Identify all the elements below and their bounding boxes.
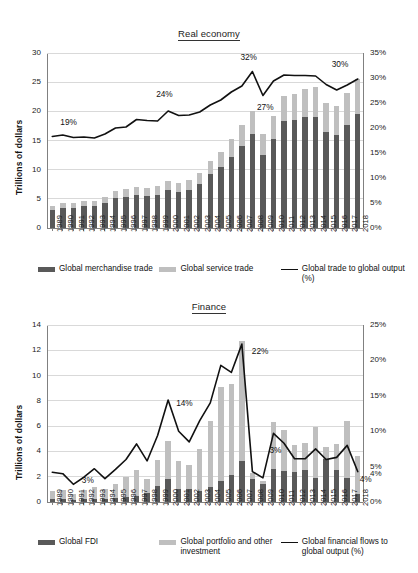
y-axis-tick-real: 25 [11,77,41,86]
y-axis-tick-real: 10 [11,165,41,174]
x-axis-tick-real: 1999 [161,215,170,232]
x-axis-tick-real: 1991 [77,215,86,232]
legend-item-label: Global financial flows to global output … [302,537,408,557]
x-axis-tick-fin: 2018 [361,489,370,506]
y2-axis-tick-real: 0% [370,223,382,232]
x-axis-tick-real: 2004 [213,215,222,232]
x-axis-tick-real: 2008 [256,215,265,232]
x-axis-tick-real: 1989 [55,215,64,232]
legend-item-label: Global trade to global output (%) [302,264,408,284]
y-axis-tick-fin: 2 [11,472,41,481]
x-axis-tick-real: 2000 [171,215,180,232]
x-axis-tick-fin: 1991 [77,489,86,506]
x-axis-tick-real: 2003 [203,215,212,232]
y-axis-tick-fin: 12 [11,345,41,354]
x-axis-tick-fin: 2007 [245,489,254,506]
legend-light-swatch-icon [159,540,176,545]
legend-item: Global portfolio and other investment [159,537,274,557]
legend-item: Global service trade [159,264,274,274]
x-axis-tick-real: 2005 [224,215,233,232]
x-axis-tick-fin: 1997 [140,489,149,506]
x-axis-tick-real: 2018 [361,215,370,232]
y-axis-tick-fin: 10 [11,371,41,380]
data-annotation-real: 32% [240,52,257,62]
y2-axis-tick-real: 20% [370,123,386,132]
figure-root: Real economy Trillions of dollars Global… [0,0,418,573]
legend-item-label: Global service trade [180,264,253,274]
plot-area-real-economy [0,0,418,290]
x-axis-tick-fin: 2016 [340,489,349,506]
x-axis-tick-fin: 2009 [266,489,275,506]
y2-axis-tick-real: 35% [370,48,386,57]
data-annotation-real: 19% [60,117,77,127]
y2-axis-tick-fin: 20% [370,355,386,364]
x-axis-tick-real: 1994 [108,215,117,232]
legend-light-swatch-icon [159,267,176,272]
x-axis-tick-real: 1995 [119,215,128,232]
x-axis-tick-real: 1992 [87,215,96,232]
x-axis-tick-real: 2009 [266,215,275,232]
plot-area-finance [0,290,418,573]
y-axis-tick-fin: 8 [11,396,41,405]
data-annotation-fin: 4% [360,474,372,484]
legend-item-label: Global portfolio and other investment [180,537,274,557]
y2-axis-tick-fin: 10% [370,426,386,435]
data-annotation-fin: 3% [82,475,94,485]
x-axis-tick-real: 2012 [298,215,307,232]
data-annotation-real: 24% [156,89,173,99]
x-axis-tick-fin: 2003 [203,489,212,506]
legend-item: Global financial flows to global output … [281,537,408,557]
y2-axis-tick-real: 5% [370,198,382,207]
y-axis-tick-fin: 6 [11,421,41,430]
data-annotation-fin: 3% [269,445,281,455]
x-axis-tick-real: 2001 [182,215,191,232]
x-axis-tick-real: 2010 [277,215,286,232]
chart-panel-finance: Finance Trillions of dollars Global FDIG… [0,290,418,573]
x-axis-tick-fin: 1994 [108,489,117,506]
x-axis-tick-fin: 2017 [350,489,359,506]
legend-real-economy: Global merchandise tradeGlobal service t… [38,264,414,284]
legend-item-label: Global merchandise trade [59,264,153,274]
x-axis-tick-real: 2016 [340,215,349,232]
x-axis-tick-real: 2007 [245,215,254,232]
x-axis-tick-real: 2013 [308,215,317,232]
legend-item: Global trade to global output (%) [281,264,408,284]
x-axis-tick-fin: 1992 [87,489,96,506]
x-axis-tick-fin: 1999 [161,489,170,506]
x-axis-tick-fin: 2013 [308,489,317,506]
legend-line-swatch-icon [281,269,298,270]
x-axis-tick-fin: 2008 [256,489,265,506]
data-annotation-real: 27% [257,102,274,112]
x-axis-tick-real: 2015 [329,215,338,232]
x-axis-tick-fin: 2010 [277,489,286,506]
y2-axis-tick-real: 25% [370,98,386,107]
y2-axis-tick-fin: 0% [370,497,382,506]
x-axis-tick-fin: 2002 [192,489,201,506]
y2-axis-tick-real: 15% [370,148,386,157]
x-axis-tick-fin: 2012 [298,489,307,506]
legend-item: Global merchandise trade [38,264,153,274]
legend-item-label: Global FDI [59,537,98,547]
legend-line-swatch-icon [281,542,298,543]
y-axis-tick-fin: 0 [11,497,41,506]
x-axis-tick-fin: 1996 [129,489,138,506]
x-axis-tick-fin: 2015 [329,489,338,506]
x-axis-tick-fin: 2001 [182,489,191,506]
legend-dark-swatch-icon [38,540,55,545]
x-axis-tick-fin: 1995 [119,489,128,506]
x-axis-tick-fin: 2004 [213,489,222,506]
x-axis-tick-fin: 1990 [66,489,75,506]
y-axis-tick-fin: 14 [11,320,41,329]
x-axis-tick-real: 1997 [140,215,149,232]
x-axis-tick-real: 2017 [350,215,359,232]
x-axis-tick-fin: 1993 [98,489,107,506]
y2-axis-tick-real: 10% [370,173,386,182]
data-annotation-real: 30% [332,59,349,69]
x-axis-tick-real: 2011 [287,216,296,232]
x-axis-tick-fin: 2014 [319,489,328,506]
data-annotation-fin: 14% [176,398,193,408]
chart-panel-real-economy: Real economy Trillions of dollars Global… [0,0,418,290]
legend-finance: Global FDIGlobal portfolio and other inv… [38,537,414,557]
x-axis-tick-fin: 1998 [150,489,159,506]
y-axis-tick-real: 20 [11,106,41,115]
